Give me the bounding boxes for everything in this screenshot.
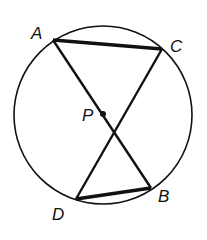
label-b: B — [158, 187, 169, 206]
segment-ac — [53, 40, 162, 49]
diagram-canvas: A C P B D — [0, 0, 207, 240]
label-a: A — [30, 24, 42, 43]
circle-chords-diagram: A C P B D — [0, 0, 207, 240]
label-d: D — [52, 205, 64, 224]
point-p-dot — [100, 111, 106, 117]
label-c: C — [170, 37, 183, 56]
label-p: P — [82, 106, 94, 125]
segment-db — [76, 188, 151, 199]
